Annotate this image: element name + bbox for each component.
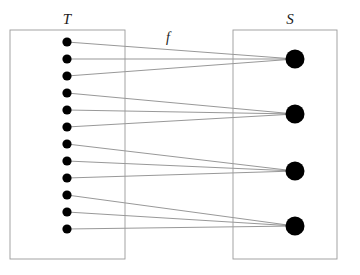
domain-element-dot [62, 37, 71, 46]
connector-line [67, 161, 295, 171]
domain-element-dot [62, 156, 71, 165]
domain-set-label: T [63, 11, 73, 27]
domain-element-dot [62, 54, 71, 63]
domain-element-dot [62, 173, 71, 182]
connector-line [67, 226, 295, 229]
connector-line [67, 42, 295, 59]
connector-line [67, 59, 295, 76]
domain-element-dot [62, 207, 71, 216]
domain-element-dot [62, 88, 71, 97]
codomain-element-dot [286, 50, 305, 69]
domain-elements [62, 37, 71, 233]
domain-element-dot [62, 122, 71, 131]
domain-element-dot [62, 224, 71, 233]
codomain-element-dot [286, 217, 305, 236]
domain-element-dot [62, 71, 71, 80]
connector-line [67, 114, 295, 127]
codomain-set-label: S [286, 11, 294, 27]
connector-line [67, 212, 295, 226]
connector-lines [67, 42, 295, 229]
set-mapping-diagram: T S f [0, 0, 360, 275]
codomain-elements [286, 50, 305, 236]
figure-canvas: T S f [0, 0, 360, 275]
domain-element-dot [62, 139, 71, 148]
domain-element-dot [62, 190, 71, 199]
domain-element-dot [62, 105, 71, 114]
connector-line [67, 171, 295, 178]
connector-line [67, 144, 295, 171]
codomain-element-dot [286, 105, 305, 124]
connector-line [67, 195, 295, 226]
codomain-element-dot [286, 162, 305, 181]
map-function-label: f [166, 30, 172, 45]
